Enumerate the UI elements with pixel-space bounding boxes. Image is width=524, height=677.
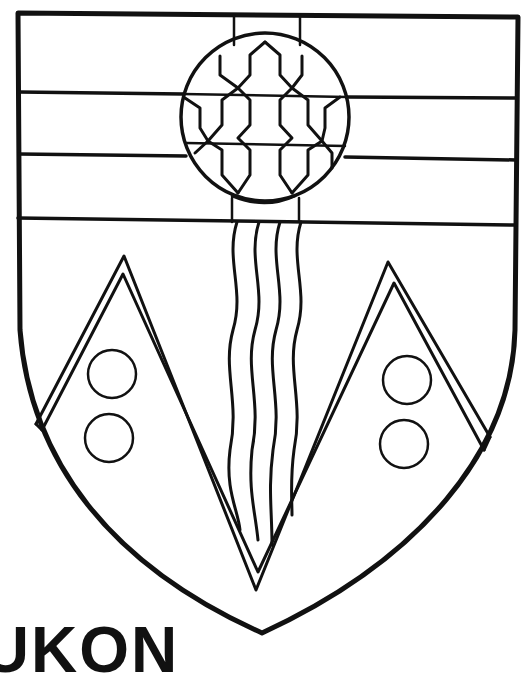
band-line-2b [345,157,516,160]
left-bezant-lower [85,414,133,462]
band-line-1 [19,92,183,94]
fretty-pattern [185,42,340,193]
band-line-3 [18,218,516,225]
right-bezant-upper [383,356,431,404]
band-line-2 [19,154,186,156]
wavy-lines [229,222,301,545]
left-bezant-upper [88,350,136,398]
left-mountain-outer [36,256,490,590]
shield-outline [18,13,518,633]
right-bezant-lower [380,420,428,468]
caption-text: YUKON [0,618,179,677]
roundel-band-1 [183,94,347,97]
band-line-1b [347,97,516,98]
